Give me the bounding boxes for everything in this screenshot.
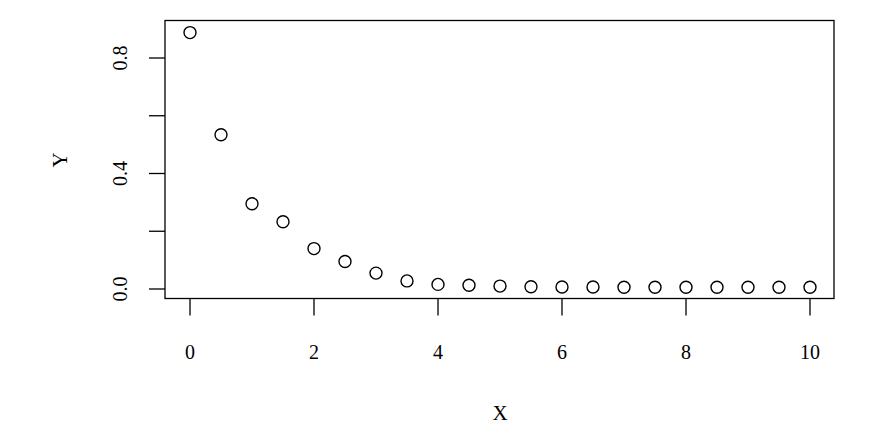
x-tick-label: 10 <box>800 341 820 363</box>
chart-background <box>0 0 874 440</box>
x-tick-label: 4 <box>433 341 443 363</box>
y-tick-label: 0.4 <box>109 161 131 186</box>
x-tick-label: 6 <box>557 341 567 363</box>
scatter-chart: 0246810 0.00.40.8 X Y <box>0 0 874 440</box>
y-axis-title: Y <box>48 152 72 167</box>
y-tick-label: 0.8 <box>109 46 131 71</box>
x-tick-label: 0 <box>185 341 195 363</box>
x-tick-label: 2 <box>309 341 319 363</box>
y-tick-label: 0.0 <box>109 277 131 302</box>
x-axis-title: X <box>492 401 507 425</box>
x-tick-label: 8 <box>681 341 691 363</box>
